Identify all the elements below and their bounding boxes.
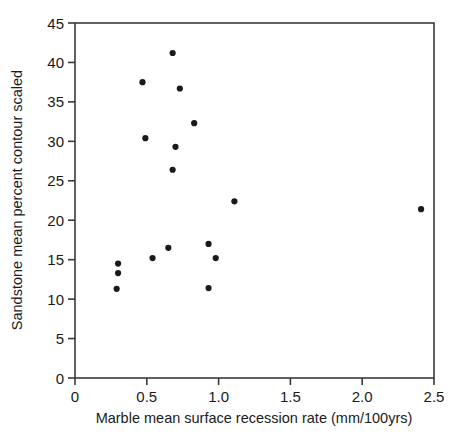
data-point: [231, 198, 237, 204]
chart-canvas: 051015202530354045 00.51.01.52.02.5 Marb…: [0, 0, 466, 447]
y-tick-label: 30: [47, 133, 64, 150]
y-tick-label: 15: [47, 251, 64, 268]
y-tick-label: 20: [47, 212, 64, 229]
data-point: [115, 261, 121, 267]
x-axis-title: Marble mean surface recession rate (mm/1…: [96, 410, 413, 426]
y-axis-tick-labels: 051015202530354045: [47, 15, 64, 387]
data-point: [165, 245, 171, 251]
data-point: [142, 135, 148, 141]
data-point: [115, 270, 121, 276]
y-tick-label: 0: [56, 370, 64, 387]
y-tick-label: 25: [47, 172, 64, 189]
data-point: [177, 85, 183, 91]
data-point: [114, 286, 120, 292]
data-point-series: [114, 50, 425, 292]
x-tick-label: 2.5: [424, 388, 445, 405]
y-tick-label: 40: [47, 54, 64, 71]
y-tick-label: 10: [47, 291, 64, 308]
y-tick-label: 45: [47, 15, 64, 32]
x-tick-label: 2.0: [352, 388, 373, 405]
x-tick-label: 0: [71, 388, 79, 405]
x-tick-label: 1.5: [280, 388, 301, 405]
data-point: [172, 144, 178, 150]
data-point: [191, 120, 197, 126]
data-point: [170, 167, 176, 173]
data-point: [213, 255, 219, 261]
x-tick-label: 1.0: [208, 388, 229, 405]
data-point: [139, 79, 145, 85]
x-axis-tick-labels: 00.51.01.52.02.5: [71, 388, 445, 405]
y-axis-tick-marks: [68, 23, 75, 378]
data-point: [170, 50, 176, 56]
data-point: [149, 255, 155, 261]
y-axis-title: Sandstone mean percent contour scaled: [9, 70, 25, 330]
data-point: [418, 206, 424, 212]
y-tick-label: 35: [47, 93, 64, 110]
x-tick-label: 0.5: [136, 388, 157, 405]
y-tick-label: 5: [56, 330, 64, 347]
data-point: [205, 241, 211, 247]
data-point: [205, 285, 211, 291]
scatter-plot-figure: 051015202530354045 00.51.01.52.02.5 Marb…: [0, 0, 466, 447]
plot-area-frame: [75, 23, 434, 378]
x-axis-tick-marks: [75, 378, 434, 385]
